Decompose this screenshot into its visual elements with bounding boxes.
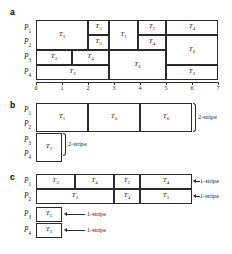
panel-a-ticklabel-6: 6 <box>188 85 196 91</box>
panel-a-ticklabel-5: 5 <box>162 85 170 91</box>
panel-a-block-t2-a: T2 <box>138 20 166 35</box>
panel-a-block-t2-b: T2 <box>36 65 109 80</box>
panel-c-arrow-line-p4 <box>67 230 85 231</box>
panel-a-block-t6-b: T6 <box>166 35 218 65</box>
panel-c-block-t3-b: T3 <box>36 223 62 238</box>
panel-b-brace-top <box>193 103 196 132</box>
panel-a-label-p4: P4 <box>24 68 31 78</box>
panel-a-block-t4-b: T4 <box>166 20 218 35</box>
panel-c-arrow-line-p3 <box>67 214 85 215</box>
panel-c-block-t4-c: T4 <box>114 189 140 204</box>
panel-a-block-t1-b: T1 <box>109 20 138 50</box>
panel-a-block-t4-a: T4 <box>138 35 166 50</box>
panel-a-ticklabel-3: 3 <box>110 85 118 91</box>
panel-a-block-t5: T5 <box>88 20 109 35</box>
panel-a-ticklabel-7: 7 <box>214 85 222 91</box>
panel-c-label-p1: P1 <box>24 177 31 187</box>
panel-c-block-t4-a: T4 <box>75 174 114 189</box>
panel-b-label-p1: P1 <box>24 106 31 116</box>
panel-c-block-t5: T5 <box>36 207 62 222</box>
panel-b-label-p2: P2 <box>24 120 31 130</box>
panel-b-block-t6-a: T6 <box>88 103 140 132</box>
panel-b-label-p4: P4 <box>24 150 31 160</box>
panel-b-letter: b <box>10 100 15 110</box>
panel-c-letter: c <box>10 172 15 182</box>
panel-c-stripe-label-p3: 1-stripe <box>87 211 106 217</box>
panel-c-block-t2-a: T2 <box>114 174 140 189</box>
panel-a-ticklabel-0: 0 <box>32 85 40 91</box>
panel-c-stripe-label-p2: 1-stripe <box>200 193 219 199</box>
panel-a-ticklabel-4: 4 <box>136 85 144 91</box>
panel-a-block-t4-c: T4 <box>72 50 109 65</box>
panel-a-ticklabel-1: 1 <box>58 85 66 91</box>
panel-c-block-t3-a: T3 <box>36 174 75 189</box>
panel-c-stripe-label-p1: 1-stripe <box>200 178 219 184</box>
panel-a-block-t6-a: T6 <box>109 50 166 80</box>
panel-a-label-p1: P1 <box>24 24 31 34</box>
panel-c-block-t2-b: T2 <box>36 189 114 204</box>
panel-a-label-p2: P2 <box>24 38 31 48</box>
panel-b-label-p3: P3 <box>24 136 31 146</box>
panel-b-stripe-label-top: 2-stripe <box>198 114 217 120</box>
panel-b-block-t1-top: T1 <box>36 103 88 132</box>
panel-a-label-p3: P3 <box>24 53 31 63</box>
panel-a-block-t1-a: T1 <box>36 20 88 50</box>
panel-c-label-p2: P2 <box>24 192 31 202</box>
panel-a-block-t3-b: T3 <box>36 50 72 65</box>
panel-c-stripe-label-p4: 1-stripe <box>87 227 106 233</box>
panel-b-brace-bottom <box>63 133 66 156</box>
panel-c-block-t4-b: T4 <box>140 174 192 189</box>
panel-a-ticklabel-2: 2 <box>84 85 92 91</box>
panel-b-stripe-label-bottom: 2-stripe <box>68 141 87 147</box>
panel-c-label-p4: P4 <box>24 226 31 236</box>
panel-a-block-t3-a: T3 <box>88 35 109 50</box>
panel-b-block-t6-b: T6 <box>140 103 192 132</box>
panel-a-block-t2-c: T2 <box>166 65 218 80</box>
panel-c-label-p3: P3 <box>24 210 31 220</box>
panel-c-block-t2-c: T2 <box>140 189 192 204</box>
panel-a-axis-line <box>36 82 218 83</box>
panel-a-letter: a <box>10 7 15 17</box>
panel-b-block-t1-bottom: T1 <box>36 133 62 162</box>
